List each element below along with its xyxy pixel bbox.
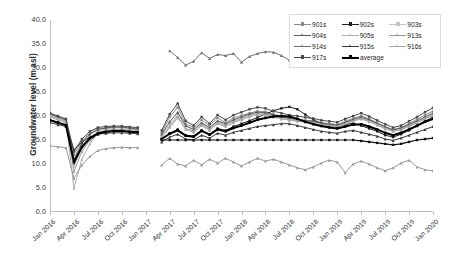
data-point	[272, 115, 274, 117]
legend-item-916s[interactable]: 916s	[389, 41, 437, 52]
legend-item-904s[interactable]: 904s	[294, 30, 342, 41]
data-point	[216, 117, 218, 119]
data-point	[304, 139, 306, 141]
data-point	[336, 127, 338, 129]
data-point	[368, 125, 370, 127]
data-point	[280, 115, 282, 117]
data-point	[57, 115, 59, 117]
legend-item-913s[interactable]: 913s	[389, 30, 437, 41]
legend-swatch-icon	[294, 53, 311, 62]
data-point	[137, 131, 139, 133]
data-point	[208, 139, 210, 141]
data-point	[320, 125, 322, 127]
data-point	[232, 127, 234, 129]
data-point	[320, 139, 322, 141]
data-point	[176, 111, 179, 114]
data-point	[384, 143, 386, 145]
data-point	[97, 126, 99, 128]
x-tick-mark	[313, 212, 314, 215]
data-point	[216, 128, 218, 130]
data-point	[65, 124, 67, 126]
data-point	[312, 139, 314, 141]
data-point	[224, 139, 226, 141]
data-point	[89, 130, 91, 132]
x-tick-mark	[289, 212, 290, 215]
data-point	[161, 129, 163, 131]
data-point	[161, 139, 163, 141]
data-point	[184, 134, 186, 136]
legend-label: 915s	[360, 43, 374, 50]
data-point	[240, 111, 242, 113]
y-tick-label: 15.0	[20, 136, 46, 143]
x-axis-tick-labels: Jan 2016Apr 2016Jul 2016Oct 2016Jan 2017…	[0, 212, 451, 255]
data-point	[304, 121, 306, 123]
legend-item-914s[interactable]: 914s	[294, 41, 342, 52]
data-point	[288, 115, 290, 117]
data-point	[129, 126, 131, 128]
data-point	[432, 137, 433, 139]
data-point	[304, 113, 306, 115]
data-point	[97, 132, 99, 134]
data-point	[432, 118, 433, 120]
data-point	[400, 124, 402, 126]
x-tick-mark	[361, 212, 362, 215]
data-point	[368, 141, 370, 143]
data-point	[336, 121, 338, 123]
legend-item-917s[interactable]: 917s	[294, 52, 342, 63]
data-point	[352, 139, 354, 141]
data-point	[73, 150, 75, 152]
data-point	[256, 116, 258, 118]
data-point	[384, 134, 386, 136]
data-point	[89, 137, 91, 139]
data-point	[416, 124, 418, 126]
data-point	[392, 144, 394, 146]
x-tick-mark	[74, 212, 75, 215]
data-point	[168, 157, 171, 160]
data-point	[272, 139, 274, 141]
data-point	[72, 187, 75, 190]
legend-swatch-icon	[389, 20, 406, 29]
data-point	[105, 131, 107, 133]
x-tick-mark	[385, 212, 386, 215]
legend-row: 904s905s913s	[294, 30, 437, 41]
data-point	[248, 108, 250, 110]
data-point	[50, 119, 51, 121]
legend-item-average[interactable]: average	[342, 52, 398, 63]
data-point	[256, 119, 258, 121]
legend-swatch-icon	[294, 42, 311, 51]
legend-item-905s[interactable]: 905s	[342, 30, 390, 41]
data-point	[105, 125, 107, 127]
data-point	[176, 139, 178, 141]
data-point	[121, 130, 123, 132]
y-tick-label: 25.0	[20, 88, 46, 95]
legend-row: 914s915s916s	[294, 41, 437, 52]
x-tick-mark	[218, 212, 219, 215]
data-point	[296, 108, 298, 110]
legend-label: 905s	[360, 32, 374, 39]
groundwater-level-chart: Groundwater level (m asl) 40.035.030.025…	[0, 0, 451, 255]
data-point	[408, 141, 410, 143]
data-point	[352, 115, 354, 117]
legend-item-902s[interactable]: 902s	[342, 19, 390, 30]
data-point	[200, 116, 202, 118]
data-point	[328, 139, 330, 141]
data-point	[200, 130, 202, 132]
data-point	[368, 115, 370, 117]
data-point	[424, 111, 426, 113]
legend-item-901s[interactable]: 901s	[294, 19, 342, 30]
data-point	[344, 125, 346, 127]
data-point	[232, 139, 234, 141]
legend-row: 901s902s903s	[294, 19, 437, 30]
legend-item-903s[interactable]: 903s	[389, 19, 437, 30]
x-tick-mark	[265, 212, 266, 215]
data-point	[384, 123, 386, 125]
legend-swatch-icon	[342, 53, 359, 62]
legend-item-915s[interactable]: 915s	[342, 41, 390, 52]
data-point	[176, 129, 178, 131]
data-point	[424, 121, 426, 123]
x-tick-mark	[146, 212, 147, 215]
data-point	[336, 139, 338, 141]
data-point	[384, 132, 386, 134]
y-tick-label: 30.0	[20, 64, 46, 71]
data-point	[376, 119, 378, 121]
